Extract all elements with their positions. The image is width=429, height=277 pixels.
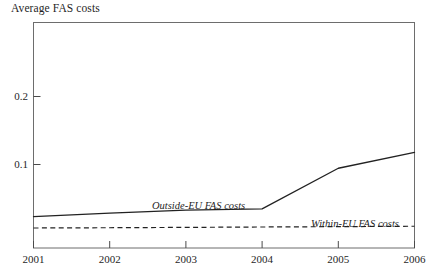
x-axis-label-2002: 2002 bbox=[88, 253, 132, 265]
x-axis-label-2001: 2001 bbox=[12, 253, 56, 265]
y-axis-ticks bbox=[34, 97, 41, 165]
x-axis-label-2003: 2003 bbox=[164, 253, 208, 265]
plot-area bbox=[0, 0, 429, 277]
series-annotation-within-eu: Within-EU FAS costs bbox=[311, 218, 399, 229]
series-annotation-outside-eu: Outside-EU FAS costs bbox=[152, 200, 245, 211]
x-axis-ticks bbox=[34, 241, 415, 248]
y-axis-label-0.1: 0.1 bbox=[2, 158, 28, 170]
y-axis-label-0.2: 0.2 bbox=[2, 90, 28, 102]
x-axis-label-2006: 2006 bbox=[393, 253, 429, 265]
x-axis-label-2004: 2004 bbox=[240, 253, 284, 265]
x-axis-label-2005: 2005 bbox=[316, 253, 360, 265]
chart-figure: Average FAS costs 0.2 0.1 2001 2002 2003… bbox=[0, 0, 429, 277]
